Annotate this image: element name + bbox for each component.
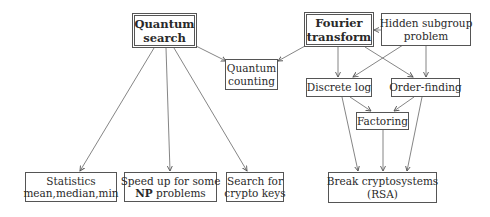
node-order-finding: Order-finding: [391, 78, 460, 97]
node-label: problem: [404, 30, 448, 43]
node-label-line2: NP problems: [135, 187, 206, 200]
node-label: Speed up for some: [121, 175, 221, 188]
node-label: search: [143, 31, 186, 45]
edge-qsearch-speedup: [166, 48, 170, 171]
node-label: Statistics: [46, 175, 96, 188]
node-statistics: Statistics mean,median,min: [25, 172, 117, 202]
node-hidden-subgroup-problem: Hidden subgroup problem: [381, 13, 471, 46]
node-discrete-log: Discrete log: [306, 78, 372, 97]
node-factoring: Factoring: [356, 112, 409, 130]
edge-order-break: [407, 97, 422, 171]
edge-dlog-break: [342, 97, 358, 171]
node-fourier-transform: Fourier transform: [304, 12, 374, 47]
node-label: Search for: [227, 175, 283, 188]
node-label: problems: [153, 187, 206, 199]
node-label: Quantum: [134, 17, 194, 31]
node-label: Break cryptosystems: [327, 175, 439, 188]
node-label: counting: [228, 75, 275, 88]
node-label: transform: [307, 30, 372, 44]
node-label: Fourier: [315, 16, 362, 30]
node-quantum-counting: Quantum counting: [225, 59, 278, 90]
np-bold-label: NP: [135, 187, 153, 199]
node-break-cryptosystems: Break cryptosystems (RSA): [328, 172, 437, 203]
edge-hsp-dlog: [353, 45, 403, 77]
edge-qsearch-qcounting: [196, 46, 226, 61]
node-speedup-np: Speed up for some NP problems: [124, 172, 217, 202]
node-search-crypto-keys: Search for crypto keys: [226, 172, 284, 202]
edge-order-factoring: [394, 97, 414, 111]
edge-dlog-factoring: [350, 97, 371, 111]
node-label: Discrete log: [307, 81, 371, 94]
node-label: Quantum: [227, 62, 276, 75]
node-label: crypto keys: [224, 187, 285, 200]
node-label: (RSA): [367, 188, 398, 201]
node-label: Hidden subgroup: [380, 17, 473, 30]
edge-fourier-order: [365, 47, 413, 77]
node-label: Factoring: [357, 115, 408, 128]
node-label: mean,median,min: [23, 187, 118, 200]
node-label: Order-finding: [389, 81, 461, 94]
edge-qsearch-statistics: [80, 48, 154, 171]
node-quantum-search: Quantum search: [132, 13, 197, 48]
edge-fourier-qcounting: [278, 46, 305, 61]
